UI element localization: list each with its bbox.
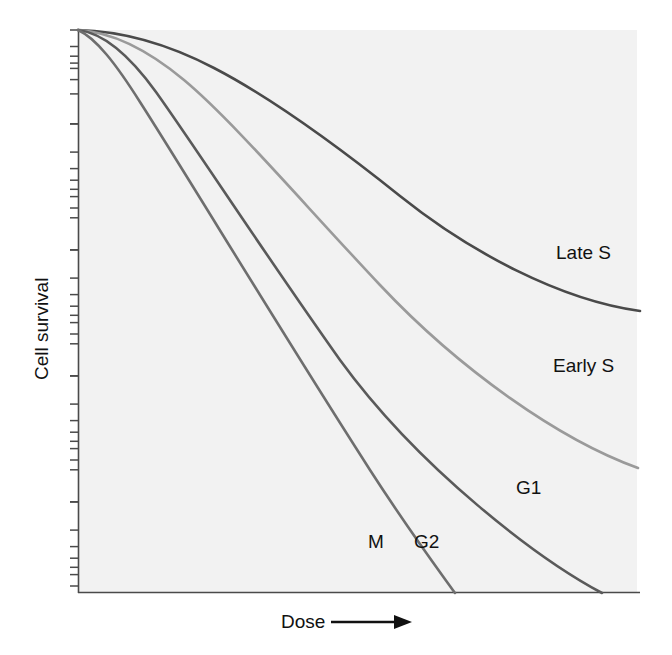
curve-label-g2: G2	[414, 531, 439, 552]
x-axis-label: Dose	[281, 611, 325, 632]
curve-label-early-s: Early S	[553, 355, 614, 376]
right-arrow-icon	[331, 615, 412, 629]
cell-survival-curve-figure: Late S Early S G1 M G2 Dose Cell surviva…	[0, 0, 672, 655]
curve-label-m: M	[368, 531, 384, 552]
curve-label-g1: G1	[516, 477, 541, 498]
y-axis-ticks	[70, 30, 78, 586]
plot-area-background	[78, 30, 637, 593]
y-axis-label: Cell survival	[31, 278, 52, 380]
chart-canvas: Late S Early S G1 M G2 Dose Cell surviva…	[0, 0, 672, 655]
curve-label-late-s: Late S	[556, 242, 611, 263]
